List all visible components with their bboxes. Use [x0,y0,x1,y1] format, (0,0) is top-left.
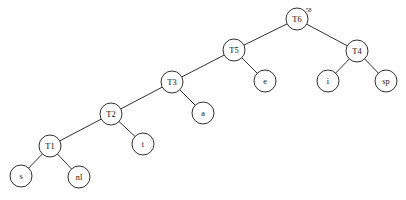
tree-node-s[interactable]: s [10,165,32,187]
tree-node-t[interactable]: t [132,133,154,155]
tree-edge-T3-T2 [120,87,162,109]
tree-node-e[interactable]: e [254,70,276,92]
node-superscript-T6: 58 [306,7,312,13]
tree-edge-T6-T4 [306,24,347,46]
edge-layer [28,24,378,170]
node-label-T2: T2 [106,110,115,119]
node-layer: T658T5T4T3T2T1eispatsnl [10,7,397,189]
tree-edge-T1-nl [57,154,72,170]
tree-node-T3[interactable]: T3 [161,71,183,93]
tree-edge-T3-a [179,89,195,105]
tree-edge-T6-T5 [243,24,287,46]
tree-diagram-canvas: T658T5T4T3T2T1eispatsnl [0,0,406,200]
tree-edge-T1-s [28,154,42,169]
tree-edge-T4-sp [364,59,378,74]
node-label-T4: T4 [352,47,362,56]
tree-edge-T5-T3 [181,55,224,77]
tree-node-T5[interactable]: T5 [223,39,245,61]
node-label-T5: T5 [229,46,238,55]
node-label-T1: T1 [45,142,54,151]
tree-node-T4[interactable]: T4 [346,40,368,62]
tree-edge-T2-t [119,121,136,137]
tree-node-T1[interactable]: T1 [39,135,61,157]
tree-node-i[interactable]: i [317,70,339,92]
tree-node-T2[interactable]: T2 [100,103,122,125]
tree-node-sp[interactable]: sp [375,70,397,92]
tree-node-a[interactable]: a [192,102,214,124]
node-label-T3: T3 [167,78,176,87]
node-label-nl: nl [76,173,83,182]
tree-node-nl[interactable]: nl [68,166,90,188]
tree-node-T6[interactable]: T658 [286,7,312,31]
tree-edge-T2-T1 [59,119,101,141]
node-label-a: a [201,109,205,118]
node-label-e: e [263,77,267,86]
node-label-s: s [19,172,22,181]
tree-diagram-svg: T658T5T4T3T2T1eispatsnl [0,0,406,200]
tree-edge-T4-i [335,59,349,74]
tree-edge-T5-e [241,57,257,73]
diagram-caption [8,190,308,198]
node-label-sp: sp [382,77,389,86]
node-label-T6: T6 [292,15,301,24]
